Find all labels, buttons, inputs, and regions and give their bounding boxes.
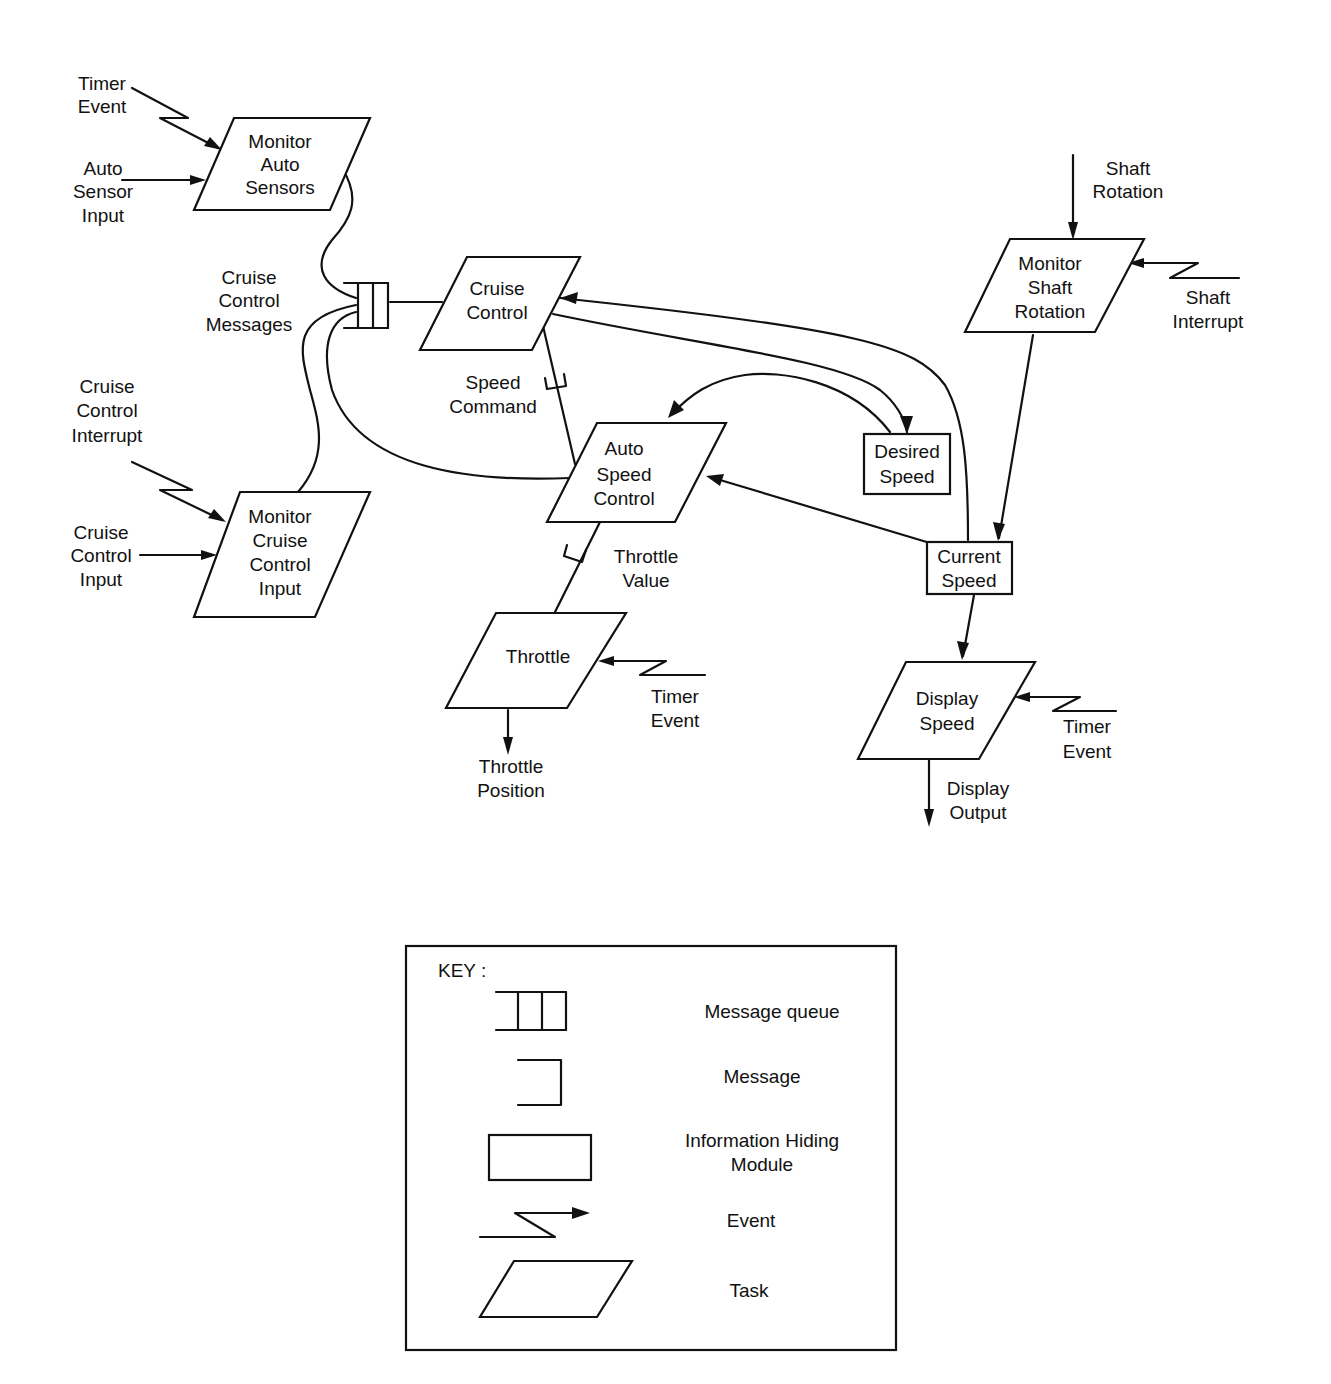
label-line: Input [80, 569, 123, 590]
throttle-value-message-icon [564, 545, 586, 562]
connector-cruise-to-desired [553, 314, 907, 432]
task-label-line: Speed [597, 464, 652, 485]
label-line: Timer [1063, 716, 1112, 737]
arrowhead-into-current [993, 522, 1005, 541]
label-line: Interrupt [1173, 311, 1244, 332]
arrowhead-into-auto-from-current [706, 474, 724, 486]
task-label-line: Sensors [245, 177, 315, 198]
connector-cc-input-to-queue [298, 305, 356, 492]
task-monitor-auto-sensors[interactable]: Monitor Auto Sensors [194, 118, 370, 210]
module-label-line: Current [937, 546, 1001, 567]
legend-task-icon [480, 1261, 632, 1317]
arrowhead-into-cruise [560, 292, 578, 304]
shaft-interrupt-zigzag [1136, 263, 1239, 278]
task-label-line: Control [466, 302, 527, 323]
label-line: Input [82, 205, 125, 226]
legend-information-hiding-module-icon [489, 1135, 591, 1180]
module-label-line: Desired [874, 441, 939, 462]
label-line: Messages [206, 314, 293, 335]
label-line: Rotation [1093, 181, 1164, 202]
legend-label-message-queue: Message queue [704, 1001, 839, 1022]
label-cruise-control-input: Cruise Control Input [70, 522, 131, 590]
arrowhead-cruise-interrupt [208, 509, 226, 522]
label-line: Control [70, 545, 131, 566]
throttle-timer-zigzag [606, 661, 705, 675]
arrowhead-into-display [957, 641, 969, 660]
arrowhead-into-auto-from-desired [668, 400, 684, 418]
legend-title: KEY : [438, 960, 486, 981]
label-line: Timer [78, 73, 127, 94]
cruise-control-diagram: Monitor Auto Sensors Cruise Control Moni… [0, 0, 1331, 1384]
label-line: Control [218, 290, 279, 311]
label-cruise-control-interrupt: Cruise Control Interrupt [72, 376, 143, 446]
arrowhead-into-desired [900, 416, 913, 434]
legend-label-event: Event [727, 1210, 776, 1231]
label-line: Value [622, 570, 669, 591]
label-line: Output [949, 802, 1007, 823]
label-timer-event-3: Timer Event [1063, 716, 1112, 762]
label-line: Auto [83, 158, 122, 179]
label-line: Event [78, 96, 127, 117]
label-line: Cruise [222, 267, 277, 288]
arrowhead-timer-1 [204, 137, 222, 150]
label-line: Event [651, 710, 700, 731]
timer-event-zigzag-1 [132, 88, 218, 148]
task-label-line: Display [916, 688, 979, 709]
label-line: Timer [651, 686, 700, 707]
task-label-line: Input [259, 578, 302, 599]
task-label-line: Shaft [1028, 277, 1073, 298]
label-throttle-position: Throttle Position [477, 756, 545, 801]
task-monitor-cruise-control-input[interactable]: Monitor Cruise Control Input [194, 492, 370, 617]
connector-throttle-value [555, 522, 600, 612]
legend: KEY : Message queue Message Information … [406, 946, 896, 1350]
label-shaft-rotation: Shaft Rotation [1093, 158, 1164, 202]
task-label-line: Auto [260, 154, 299, 175]
label-line: Speed [466, 372, 521, 393]
legend-message-icon [518, 1060, 561, 1105]
connector-shaft-to-current [999, 335, 1033, 538]
label-speed-command: Speed Command [449, 372, 537, 417]
legend-label-task: Task [729, 1280, 769, 1301]
task-throttle[interactable]: Throttle [446, 613, 626, 708]
task-label-line: Throttle [506, 646, 570, 667]
arrowhead-shaft-rotation [1068, 222, 1078, 240]
task-auto-speed-control[interactable]: Auto Speed Control [547, 423, 726, 522]
task-label-line: Auto [604, 438, 643, 459]
label-line: Throttle [614, 546, 678, 567]
label-shaft-interrupt: Shaft Interrupt [1173, 287, 1244, 332]
arrowhead-throttle-timer [598, 656, 614, 666]
legend-message-queue-icon [496, 992, 566, 1030]
task-label-line: Rotation [1015, 301, 1086, 322]
task-label-line: Cruise [253, 530, 308, 551]
task-shape [858, 662, 1035, 759]
label-line: Event [1063, 741, 1112, 762]
connector-speed-command [543, 326, 575, 464]
arrowhead-auto-sensor [190, 175, 206, 185]
label-throttle-value: Throttle Value [614, 546, 678, 591]
label-display-output: Display Output [947, 778, 1010, 823]
label-line: Interrupt [72, 425, 143, 446]
module-current-speed[interactable]: Current Speed [927, 542, 1012, 594]
label-line: Display [947, 778, 1010, 799]
task-display-speed[interactable]: Display Speed [858, 662, 1035, 759]
task-label-line: Control [593, 488, 654, 509]
label-line: Sensor [73, 181, 134, 202]
label-timer-event-2: Timer Event [651, 686, 700, 731]
label-line: Cruise [74, 522, 129, 543]
legend-label-information-hiding-module: Module [731, 1154, 793, 1175]
label-line: Control [76, 400, 137, 421]
module-desired-speed[interactable]: Desired Speed [864, 434, 950, 494]
task-label-line: Cruise [470, 278, 525, 299]
label-timer-event-1: Timer Event [78, 73, 127, 117]
module-label-line: Speed [942, 570, 997, 591]
legend-label-information-hiding-module: Information Hiding [685, 1130, 839, 1151]
task-cruise-control[interactable]: Cruise Control [420, 257, 580, 350]
label-line: Throttle [479, 756, 543, 777]
task-monitor-shaft-rotation[interactable]: Monitor Shaft Rotation [965, 239, 1144, 332]
task-label-line: Monitor [248, 506, 312, 527]
arrowhead-throttle-position [503, 737, 513, 755]
label-line: Command [449, 396, 537, 417]
task-label-line: Monitor [1018, 253, 1082, 274]
cruise-interrupt-zigzag [132, 462, 222, 520]
display-timer-zigzag [1022, 697, 1116, 711]
